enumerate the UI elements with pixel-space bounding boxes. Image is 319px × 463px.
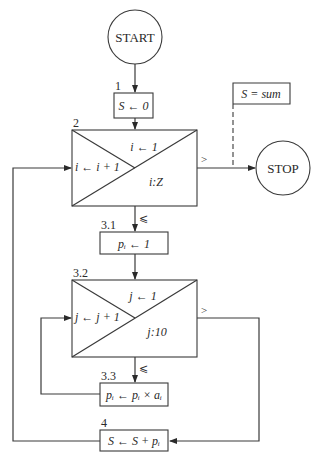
step-1-number: 1 [115, 79, 121, 93]
start-node: START [108, 10, 162, 64]
step-3-2-test: j:10 [145, 325, 166, 339]
step-2-number: 2 [73, 116, 79, 130]
step-3-1-box: pᵢ ← 1 [100, 232, 168, 254]
step-3-2-continue-condition: ⩽ [139, 362, 148, 374]
step-2-increment: i ← i + 1 [75, 160, 120, 174]
step-3-2-init: j ← 1 [127, 289, 156, 303]
stop-label: STOP [267, 161, 299, 176]
step-4-number: 4 [101, 416, 107, 430]
step-2-continue-condition: ⩽ [139, 212, 148, 224]
step-2-loop-box: i ← 1 i ← i + 1 i:Z [72, 130, 197, 206]
step-3-2-increment: j ← j + 1 [73, 310, 120, 324]
step-2-exit-condition: > [201, 153, 207, 165]
step-1-box: S ← 0 [114, 93, 153, 118]
step-3-2-loop-box: j ← 1 j ← j + 1 j:10 [72, 280, 197, 357]
step-4-box: S ← S + pᵢ [100, 430, 168, 451]
step-3-1-number: 3.1 [101, 218, 116, 232]
flowchart-canvas: START 1 S ← 0 2 i ← 1 i ← i + 1 i:Z > ST… [0, 0, 319, 463]
annotation-label: S = sum [241, 87, 281, 101]
step-3-3-label: pᵢ ← pᵢ × aᵢ [105, 388, 162, 402]
start-label: START [115, 30, 154, 45]
step-3-1-label: pᵢ ← 1 [117, 237, 150, 251]
annotation-box: S = sum [233, 83, 290, 104]
step-2-test: i:Z [149, 175, 163, 189]
step-3-2-number: 3.2 [73, 266, 88, 280]
step-4-label: S ← S + pᵢ [108, 434, 160, 448]
step-3-2-exit-condition: > [201, 304, 207, 316]
step-3-3-box: pᵢ ← pᵢ × aᵢ [100, 383, 168, 406]
step-1-label: S ← 0 [119, 99, 149, 113]
step-3-3-number: 3.3 [101, 369, 116, 383]
step-2-init: i ← 1 [130, 140, 157, 154]
stop-node: STOP [256, 141, 310, 195]
